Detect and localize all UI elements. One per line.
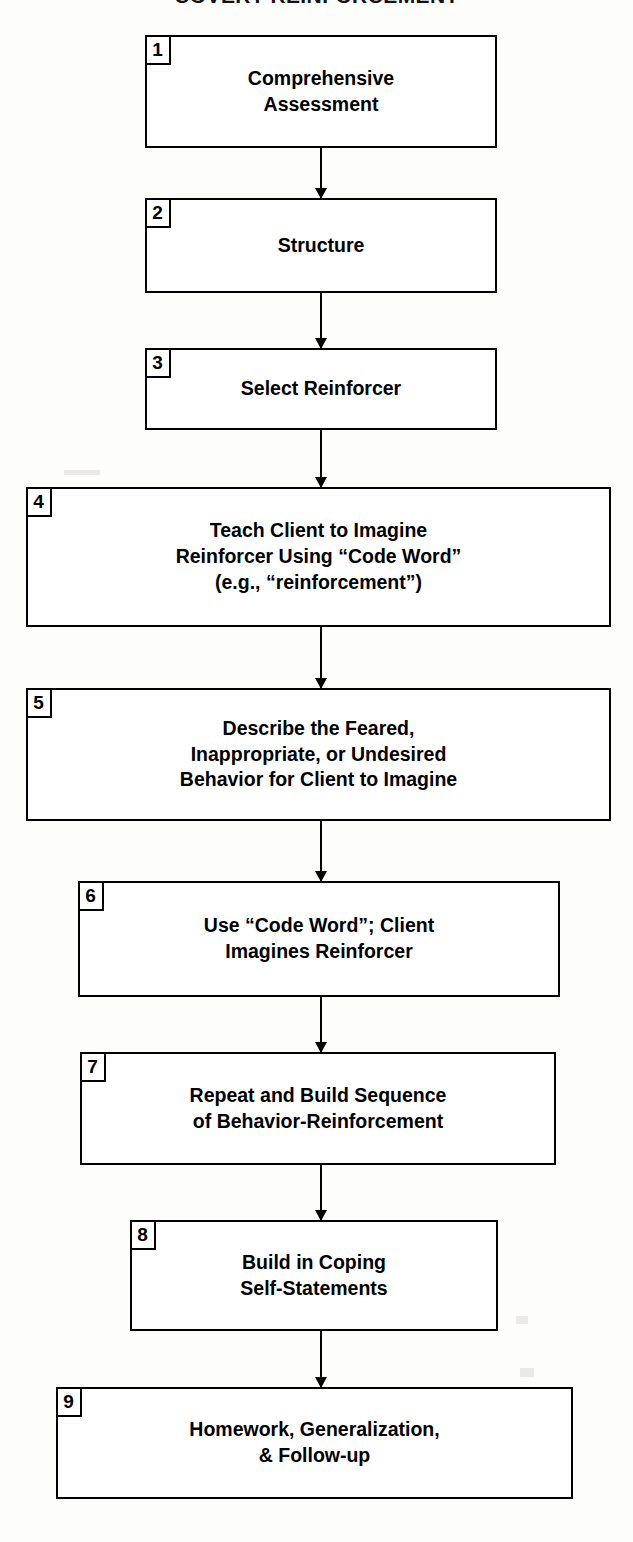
flow-node-5-label: Describe the Feared, Inappropriate, or U… [170,716,467,793]
step-number-3: 3 [145,348,171,378]
flow-node-4-label: Teach Client to Imagine Reinforcer Using… [166,518,472,595]
flow-node-1-label: Comprehensive Assessment [238,66,404,117]
flow-node-3-label: Select Reinforcer [231,376,411,402]
flow-node-9-label: Homework, Generalization, & Follow-up [179,1417,449,1468]
connector-3-to-4 [320,430,322,487]
flow-node-6-label: Use “Code Word”; Client Imagines Reinfor… [194,913,444,964]
scan-artifact [516,1316,528,1324]
flow-node-8-label: Build in Coping Self-Statements [230,1250,397,1301]
flow-node-7-label: Repeat and Build Sequence of Behavior-Re… [180,1083,457,1134]
flowchart-page: COVERT REINFORCEMENT 1 Comprehensive Ass… [0,0,633,1542]
flow-node-7: 7 Repeat and Build Sequence of Behavior-… [80,1052,556,1165]
connector-6-to-7 [320,997,322,1052]
step-number-2: 2 [145,198,171,228]
step-number-1: 1 [145,35,171,65]
step-number-4: 4 [26,487,52,517]
connector-1-to-2 [320,148,322,198]
connector-4-to-5 [320,627,322,688]
connector-8-to-9 [320,1331,322,1387]
step-number-7: 7 [80,1052,106,1082]
flow-node-5: 5 Describe the Feared, Inappropriate, or… [26,688,611,821]
flow-node-6: 6 Use “Code Word”; Client Imagines Reinf… [78,881,560,997]
flow-node-3: 3 Select Reinforcer [145,348,497,430]
flow-node-4: 4 Teach Client to Imagine Reinforcer Usi… [26,487,611,627]
flow-node-1: 1 Comprehensive Assessment [145,35,497,148]
scan-artifact [64,470,100,475]
step-number-9: 9 [56,1387,82,1417]
scan-artifact [520,1368,534,1377]
flow-node-2-label: Structure [268,233,375,259]
flow-node-2: 2 Structure [145,198,497,293]
page-title: COVERT REINFORCEMENT [0,0,633,8]
flow-node-9: 9 Homework, Generalization, & Follow-up [56,1387,573,1499]
step-number-5: 5 [26,688,52,718]
step-number-8: 8 [130,1220,156,1250]
connector-7-to-8 [320,1165,322,1220]
connector-2-to-3 [320,293,322,348]
connector-5-to-6 [320,821,322,881]
step-number-6: 6 [78,881,104,911]
flow-node-8: 8 Build in Coping Self-Statements [130,1220,498,1331]
